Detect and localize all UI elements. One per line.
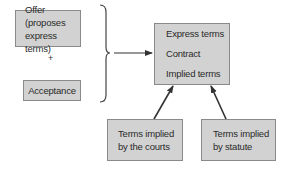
contract-label: Contract xyxy=(166,44,229,64)
arrow-courts-to-contract xyxy=(154,86,173,119)
plus-sign: + xyxy=(48,53,53,63)
courts-line-1: Terms implied xyxy=(118,127,182,140)
courts-line-2: by the courts xyxy=(118,140,182,153)
arrow-statute-to-contract xyxy=(211,86,226,119)
contract-implied-terms: Implied terms xyxy=(166,64,229,84)
contract-express-terms: Express terms xyxy=(166,24,229,44)
statute-box: Terms implied by statute xyxy=(201,119,276,161)
acceptance-label: Acceptance xyxy=(24,84,80,97)
acceptance-box: Acceptance xyxy=(23,80,81,101)
courts-box: Terms implied by the courts xyxy=(107,119,183,161)
statute-line-2: by statute xyxy=(213,140,275,153)
curly-brace xyxy=(100,5,110,102)
statute-line-1: Terms implied xyxy=(213,127,275,140)
offer-line-1: Offer (proposes xyxy=(25,3,80,29)
offer-box: Offer (proposes express terms) xyxy=(15,10,81,47)
contract-box: Express terms Contract Implied terms xyxy=(154,23,230,85)
offer-line-2: express terms) xyxy=(25,29,80,55)
